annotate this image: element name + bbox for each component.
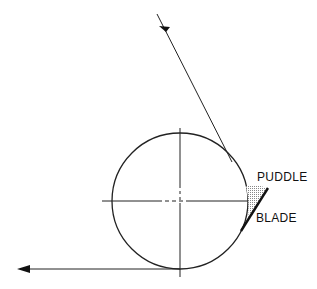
outgoing-arrowhead-icon xyxy=(17,265,30,273)
incoming-arrowhead-icon xyxy=(159,26,170,32)
blade-label: BLADE xyxy=(256,211,297,225)
puddle-label: PUDDLE xyxy=(257,170,307,184)
roll-coating-diagram xyxy=(0,0,317,289)
incoming-web-line xyxy=(157,14,232,162)
